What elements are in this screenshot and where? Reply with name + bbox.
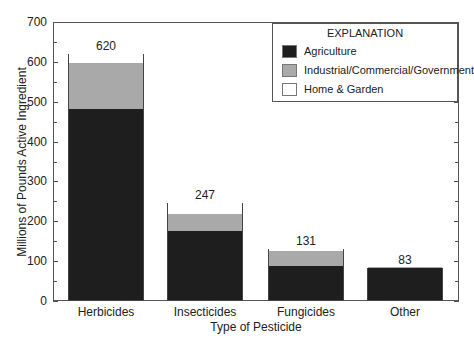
y-tick-right xyxy=(454,142,459,143)
bar-total-label: 131 xyxy=(268,234,344,248)
y-tick xyxy=(53,281,57,282)
bar-total-label: 247 xyxy=(167,188,243,202)
bar-herbicides xyxy=(68,54,144,301)
y-tick-right xyxy=(454,181,459,182)
bar-total-label: 83 xyxy=(367,253,443,267)
x-category-label: Insecticides xyxy=(155,305,255,319)
bar-other xyxy=(367,268,443,301)
y-tick xyxy=(53,102,58,103)
y-tick xyxy=(53,22,58,23)
bar-segment-ag xyxy=(168,231,242,300)
y-tick xyxy=(53,201,57,202)
bar-segment-home xyxy=(168,202,242,214)
x-axis-title: Type of Pesticide xyxy=(0,320,472,334)
x-category-label: Herbicides xyxy=(56,305,156,319)
y-tick-right xyxy=(455,241,459,242)
legend-label: Agriculture xyxy=(304,45,357,58)
legend: EXPLANATION Agriculture Industrial/Comme… xyxy=(272,23,458,102)
y-tick-right xyxy=(454,261,459,262)
y-tick-right xyxy=(455,122,459,123)
bar-segment-ag xyxy=(269,266,343,300)
legend-swatch-industrial xyxy=(282,64,297,77)
y-tick-label: 700 xyxy=(7,16,47,28)
bar-segment-ag xyxy=(368,268,442,300)
bar-segment-ind xyxy=(368,267,442,268)
legend-swatch-agriculture xyxy=(282,45,297,58)
legend-title: EXPLANATION xyxy=(273,27,457,39)
bar-segment-ind xyxy=(168,214,242,232)
y-tick-label: 0 xyxy=(7,295,47,307)
y-tick-right xyxy=(454,221,459,222)
y-tick xyxy=(53,62,58,63)
y-tick xyxy=(53,241,57,242)
bar-segment-home xyxy=(269,248,343,251)
y-tick-label: 600 xyxy=(7,56,47,68)
y-tick xyxy=(53,122,57,123)
bar-insecticides xyxy=(167,203,243,301)
y-tick-right xyxy=(455,201,459,202)
y-axis-title: Millions of Pounds Active Ingredient xyxy=(15,67,29,256)
y-tick-right xyxy=(454,301,459,302)
bar-segment-ag xyxy=(69,109,143,300)
x-category-label: Other xyxy=(355,305,455,319)
y-tick xyxy=(53,221,58,222)
bar-segment-home xyxy=(69,53,143,63)
y-tick-right xyxy=(455,162,459,163)
legend-label: Home & Garden xyxy=(304,83,383,96)
y-tick-label: 100 xyxy=(7,255,47,267)
y-tick-right xyxy=(455,281,459,282)
y-tick xyxy=(53,261,58,262)
bar-segment-ind xyxy=(269,251,343,266)
y-tick xyxy=(53,301,58,302)
bar-fungicides xyxy=(268,249,344,301)
legend-label: Industrial/Commercial/Government xyxy=(304,64,474,77)
y-tick xyxy=(53,142,58,143)
y-tick xyxy=(53,82,57,83)
y-tick xyxy=(53,162,57,163)
y-tick xyxy=(53,42,57,43)
y-tick xyxy=(53,181,58,182)
bar-total-label: 620 xyxy=(68,39,144,53)
x-category-label: Fungicides xyxy=(256,305,356,319)
bar-segment-ind xyxy=(69,63,143,109)
legend-swatch-home-garden xyxy=(282,83,297,96)
